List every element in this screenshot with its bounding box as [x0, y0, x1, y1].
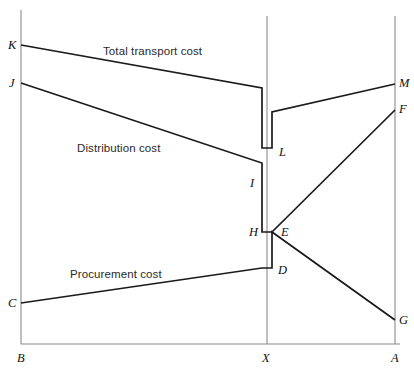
point-label-c: C — [8, 296, 17, 310]
distribution-cost-curve — [21, 83, 395, 232]
point-label-h: H — [248, 225, 259, 239]
diagram-canvas: Total transport cost Distribution cost P… — [0, 0, 414, 371]
point-label-j: J — [9, 76, 16, 90]
point-label-g: G — [399, 313, 408, 327]
cost-structure-diagram: Total transport cost Distribution cost P… — [0, 0, 414, 371]
total-transport-cost-label: Total transport cost — [103, 45, 203, 57]
point-label-b: B — [17, 351, 25, 365]
point-label-d: D — [277, 263, 287, 277]
procurement-cost-label: Procurement cost — [70, 268, 162, 280]
point-label-f: F — [398, 102, 407, 116]
distribution-cost-label: Distribution cost — [77, 142, 161, 154]
point-label-e: E — [280, 225, 289, 239]
total-transport-cost-curve — [21, 45, 395, 148]
point-label-m: M — [398, 76, 410, 90]
point-label-a: A — [390, 351, 399, 365]
point-label-x: X — [261, 351, 271, 365]
point-label-i: I — [249, 176, 255, 190]
point-label-k: K — [7, 38, 17, 52]
point-label-l: L — [278, 145, 286, 159]
